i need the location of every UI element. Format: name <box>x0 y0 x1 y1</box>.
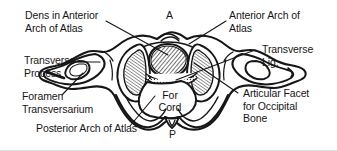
label-anterior-arch-line1: Anterior Arch of <box>229 9 300 21</box>
label-dens-in-anterior-arch-of-atlas: Dens in AnteriorArch of Atlas <box>25 9 98 34</box>
label-anterior-arch-of-atlas: Anterior Arch ofAtlas <box>229 9 300 34</box>
label-transverse-lig: TransverseLig. <box>262 43 313 68</box>
label-for-cord-line1: For <box>162 89 178 101</box>
label-for-cord: ForCord <box>151 89 189 113</box>
marker-posterior: P <box>169 129 176 140</box>
label-articular-facet-line3: Bone <box>243 112 267 124</box>
label-dens-line1: Dens in Anterior <box>25 9 98 21</box>
label-transverse-process: TransverseProcess <box>24 54 75 79</box>
label-articular-facet-for-occipital-bone: Articular Facetfor OccipitalBone <box>243 87 309 125</box>
label-transverse-process-line1: Transverse <box>24 54 75 66</box>
label-posterior-arch-of-atlas: Posterior Arch of Atlas <box>36 122 137 135</box>
label-articular-facet-line2: for Occipital <box>243 100 297 112</box>
label-foramen-transversarium: ForamenTransversarium <box>22 90 93 115</box>
label-articular-facet-line1: Articular Facet <box>243 87 309 99</box>
label-dens-line2: Arch of Atlas <box>25 22 83 34</box>
label-posterior-arch-line1: Posterior Arch of Atlas <box>36 122 137 134</box>
anatomy-figure: Dens in AnteriorArch of Atlas Transverse… <box>0 0 337 151</box>
label-foramen-line1: Foramen <box>22 90 63 102</box>
marker-anterior: A <box>166 10 173 21</box>
label-transverse-process-line2: Process <box>24 67 61 79</box>
label-transverse-lig-line2: Lig. <box>262 56 279 68</box>
label-transverse-lig-line1: Transverse <box>262 43 313 55</box>
label-foramen-line2: Transversarium <box>22 103 93 115</box>
label-anterior-arch-line2: Atlas <box>229 22 252 34</box>
label-for-cord-line2: Cord <box>159 101 182 113</box>
